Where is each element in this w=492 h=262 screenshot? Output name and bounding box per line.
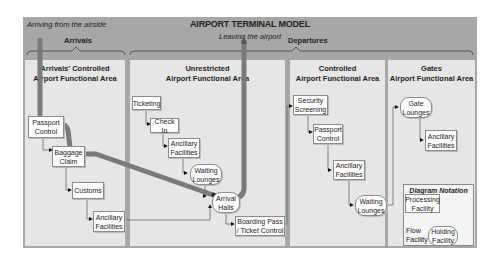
node-waiting-lounges-controlled[interactable]: WaitingLounges — [355, 195, 387, 216]
legend-flow-facility: FlowFacility — [406, 226, 428, 244]
node-arrival-halls[interactable]: ArrivalHalls — [212, 192, 240, 213]
node-baggage-claim[interactable]: BaggageClaim — [52, 146, 85, 167]
departures-group-label: Departures — [288, 36, 328, 45]
area-title: GatesAirport Functional Area — [388, 64, 475, 84]
node-passport-control-arrivals[interactable]: PassportControl — [28, 116, 64, 138]
legend-processing-facility: ProcessingFacility — [405, 194, 440, 213]
legend-holding-facility: HoldingFacility — [428, 226, 458, 246]
area-title: ControlledAirport Functional Area — [290, 64, 385, 84]
area-title: UnrestrictedAirport Functional Area — [130, 64, 285, 84]
node-ancillary-controlled[interactable]: AncillaryFacilities — [333, 160, 365, 180]
area-title: Arrivals' ControlledAirport Functional A… — [25, 64, 125, 84]
arrivals-group-label: Arrivals — [64, 36, 92, 45]
node-ticketing[interactable]: Ticketing — [132, 96, 161, 110]
node-customs[interactable]: Customs — [72, 182, 104, 199]
node-ancillary-unrestricted[interactable]: AncillaryFacilities — [168, 138, 200, 158]
node-waiting-lounges-unrestricted[interactable]: WaitingLounges — [190, 164, 222, 185]
node-gate-lounges[interactable]: GateLounges — [400, 97, 432, 118]
leaving-note: Leaving the airport — [219, 32, 281, 41]
node-boarding-pass[interactable]: Boarding Pass/ Ticket Control — [235, 216, 285, 236]
node-ancillary-gates[interactable]: AncillaryFacilities — [425, 130, 457, 151]
arriving-note: Arriving from the airside — [27, 20, 106, 29]
legend-title: Diagram Notation — [404, 187, 473, 194]
node-ancillary-arrivals[interactable]: AncillaryFacilities — [93, 211, 125, 232]
node-security-screening[interactable]: SecurityScreening — [293, 95, 328, 115]
area-controlled: ControlledAirport Functional Area — [290, 60, 385, 246]
node-passport-control-departures[interactable]: PassportControl — [313, 124, 343, 144]
node-check-in[interactable]: Check In — [150, 118, 179, 133]
